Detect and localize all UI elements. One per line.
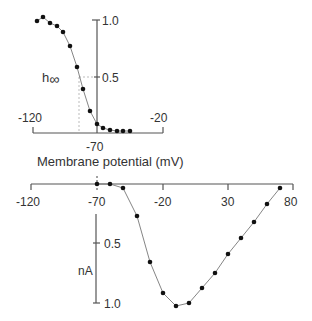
top-x-tick-label-120: -120: [18, 111, 42, 125]
top-chart: 1.0 0.5 -120 -20 -70 h∞ Membrane potenti…: [18, 14, 184, 169]
top-y-label: h∞: [42, 70, 59, 87]
bottom-x-tick-label-70: -70: [88, 195, 106, 209]
bottom-y-tick-label-05: 0.5: [104, 237, 121, 251]
bottom-x-tick-label-30: 30: [221, 195, 235, 209]
figure: 1.0 0.5 -120 -20 -70 h∞ Membrane potenti…: [0, 0, 312, 321]
top-x-tick-label-70: -70: [86, 140, 104, 154]
bottom-y-label: nA: [78, 264, 93, 278]
bottom-x-tick-label-20: -20: [154, 195, 172, 209]
top-y-tick-label-1: 1.0: [102, 14, 119, 28]
bottom-y-tick-label-1: 1.0: [104, 297, 121, 311]
bottom-x-tick-label-80: 80: [284, 195, 298, 209]
top-x-label: Membrane potential (mV): [37, 154, 184, 169]
current-curve: [97, 184, 280, 306]
top-x-tick-label-20: -20: [150, 111, 168, 125]
top-y-tick-label-05: 0.5: [102, 71, 119, 85]
bottom-chart: -120 -70 -20 30 80 0.5 1.0 nA: [16, 176, 298, 311]
current-points: [95, 182, 283, 309]
bottom-x-tick-label-120: -120: [16, 195, 40, 209]
